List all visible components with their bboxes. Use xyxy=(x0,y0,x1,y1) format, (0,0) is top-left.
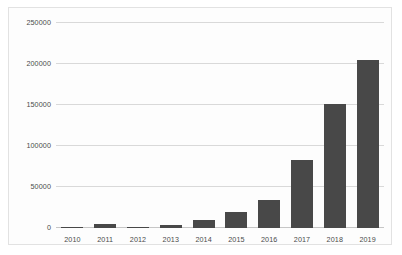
y-axis-tick-label: 0 xyxy=(47,223,51,232)
bar-slot: 2013 xyxy=(154,23,187,228)
plot-area: 050000100000150000200000250000 201020112… xyxy=(56,23,384,228)
bar-series: 2010201120122013201420152016201720182019 xyxy=(56,23,384,228)
y-axis-tick-label: 150000 xyxy=(26,100,51,109)
x-axis-tick-label: 2010 xyxy=(64,235,80,244)
x-axis-tick-label: 2016 xyxy=(261,235,277,244)
bar[interactable] xyxy=(258,200,280,228)
bar-slot: 2019 xyxy=(351,23,384,228)
bar[interactable] xyxy=(160,225,182,228)
bar-slot: 2011 xyxy=(89,23,122,228)
x-axis-tick-label: 2017 xyxy=(294,235,310,244)
bar-slot: 2012 xyxy=(122,23,155,228)
x-axis-tick-label: 2014 xyxy=(195,235,211,244)
bar-slot: 2016 xyxy=(253,23,286,228)
bar[interactable] xyxy=(357,60,379,228)
bar[interactable] xyxy=(225,212,247,228)
x-axis-tick-label: 2012 xyxy=(130,235,146,244)
bar[interactable] xyxy=(193,220,215,228)
x-axis-tick-label: 2013 xyxy=(163,235,179,244)
bar-slot: 2015 xyxy=(220,23,253,228)
bar-slot: 2014 xyxy=(187,23,220,228)
bar[interactable] xyxy=(127,227,149,228)
x-axis-tick-label: 2015 xyxy=(228,235,244,244)
x-axis-tick-label: 2011 xyxy=(97,235,113,244)
chart-frame: 050000100000150000200000250000 201020112… xyxy=(8,7,392,245)
y-axis-tick-label: 100000 xyxy=(26,141,51,150)
bar[interactable] xyxy=(324,104,346,228)
y-axis-tick-label: 200000 xyxy=(26,59,51,68)
x-axis-tick-label: 2018 xyxy=(327,235,343,244)
bar-slot: 2018 xyxy=(318,23,351,228)
y-axis-tick-label: 50000 xyxy=(31,182,52,191)
x-axis-tick-label: 2019 xyxy=(359,235,375,244)
y-axis-tick-label: 250000 xyxy=(26,18,51,27)
bar-slot: 2010 xyxy=(56,23,89,228)
bar[interactable] xyxy=(94,224,116,228)
bar[interactable] xyxy=(291,160,313,228)
bar[interactable] xyxy=(61,227,83,228)
bar-slot: 2017 xyxy=(286,23,319,228)
